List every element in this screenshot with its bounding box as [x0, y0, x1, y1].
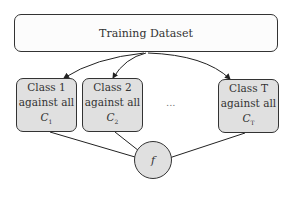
training-dataset-node: Training Dataset: [14, 14, 278, 52]
classifier-node-1: Class 1 against all C1: [16, 78, 77, 132]
training-dataset-label: Training Dataset: [99, 27, 193, 40]
classifier-line1: Class 1: [27, 80, 65, 95]
classifier-line1: Class T: [229, 81, 268, 96]
classifier-line2: against all: [85, 95, 140, 110]
classifier-node-t: Class T against all CT: [218, 79, 279, 133]
classifier-symbol: C1: [41, 110, 53, 129]
classifier-symbol: CT: [242, 111, 254, 130]
classifier-line2: against all: [221, 96, 276, 111]
classifier-line1: Class 2: [93, 80, 131, 95]
classifier-node-2: Class 2 against all C2: [82, 78, 143, 132]
output-function-label: f: [151, 154, 155, 167]
classifier-symbol: C2: [107, 110, 119, 129]
classifier-line2: against all: [19, 95, 74, 110]
output-function-node: f: [134, 141, 172, 179]
ellipsis: ...: [166, 97, 176, 108]
